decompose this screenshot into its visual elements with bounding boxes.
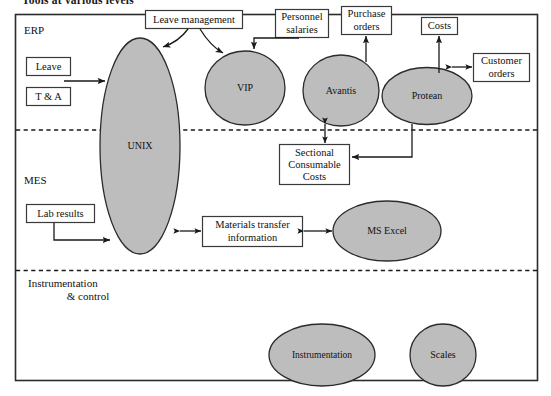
- box-leave-management: [146, 11, 243, 29]
- box-personnel-salaries: [276, 10, 329, 38]
- box-costs: [422, 18, 458, 35]
- box-t-and-a: [27, 88, 71, 106]
- box-leave: [27, 58, 71, 76]
- diagram-canvas: Tools at various levels: [0, 0, 551, 396]
- box-customer-orders: [474, 54, 530, 82]
- node-protean: [382, 68, 472, 125]
- node-scales: [410, 324, 476, 386]
- box-sectional-consumable-costs: [280, 145, 350, 185]
- box-lab-results: [27, 205, 95, 223]
- node-msexcel: [333, 201, 441, 261]
- diagram-svg: [0, 0, 551, 396]
- node-vip: [205, 51, 285, 125]
- box-purchase-orders: [342, 7, 392, 35]
- box-materials-transfer-information: [203, 217, 303, 247]
- node-instrumentation: [269, 324, 375, 386]
- node-unix: [100, 38, 180, 254]
- node-avantis: [303, 55, 379, 126]
